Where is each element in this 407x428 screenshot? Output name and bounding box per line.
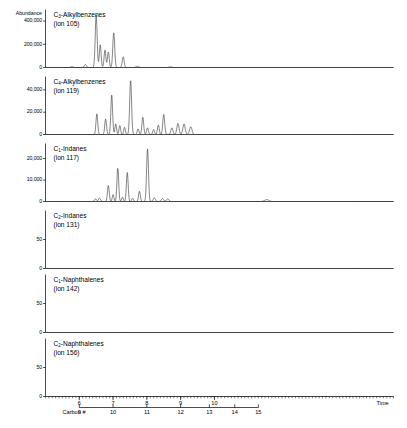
time-tick-label: 10 [208,401,220,407]
carbon-tick-label: 10 [107,410,119,416]
chromatogram-figure: 0200,000400,000C3-Alkylbenzenes(ion 105)… [0,0,407,428]
time-tick-label: 7 [107,401,119,407]
time-tick-label: 9 [175,401,187,407]
time-axis [0,0,407,428]
carbon-tick-label: 15 [252,410,264,416]
time-tick-label: 6 [73,401,85,407]
carbon-tick-label: 14 [229,410,241,416]
carbon-tick-label: 12 [175,410,187,416]
carbon-axis-title: Carbon # [63,410,86,416]
carbon-tick-label: 13 [203,410,215,416]
carbon-tick-label: 11 [141,410,153,416]
time-tick-label: 8 [141,401,153,407]
time-axis-title: Time [377,401,389,407]
